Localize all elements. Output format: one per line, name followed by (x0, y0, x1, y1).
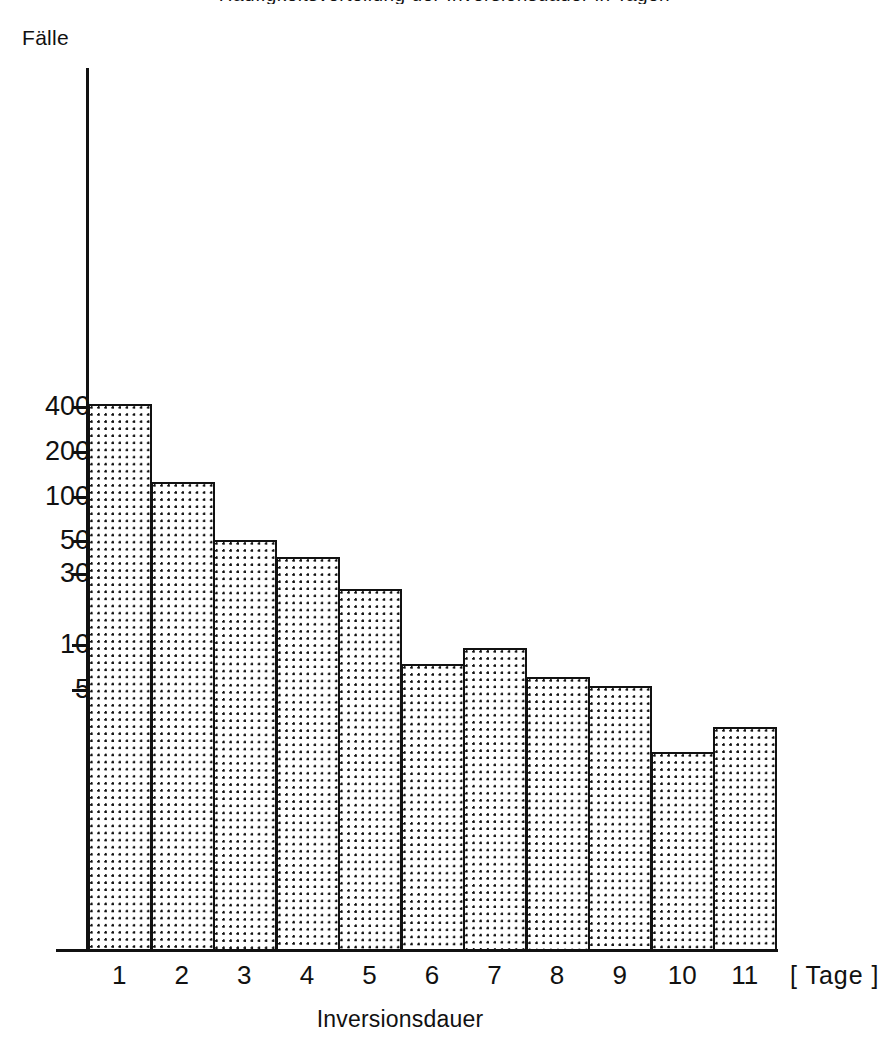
x-tick-label-3: 3 (213, 960, 276, 990)
bar-10 (651, 752, 715, 951)
histogram-chart: Fälle 4002001005030105 1234567891011 [ T… (0, 0, 889, 1053)
bar-2 (151, 482, 215, 951)
bar-8 (526, 677, 590, 951)
bar-9 (588, 686, 652, 951)
x-axis-unit-label: [ Tage ] (790, 960, 880, 990)
bar-5 (338, 589, 402, 951)
bar-3 (213, 540, 277, 951)
x-tick-label-11: 11 (713, 960, 776, 990)
x-tick-label-5: 5 (338, 960, 401, 990)
x-tick-label-1: 1 (88, 960, 151, 990)
bar-6 (401, 664, 465, 951)
bar-4 (276, 557, 340, 951)
x-tick-label-7: 7 (463, 960, 526, 990)
x-tick-label-10: 10 (651, 960, 714, 990)
bar-series (0, 0, 889, 1053)
x-tick-label-2: 2 (151, 960, 214, 990)
bar-1 (88, 404, 152, 951)
x-tick-label-9: 9 (588, 960, 651, 990)
x-tick-label-8: 8 (526, 960, 589, 990)
x-axis-title: Inversionsdauer (0, 1006, 800, 1033)
bar-7 (463, 648, 527, 951)
bar-11 (713, 727, 777, 951)
x-tick-label-6: 6 (401, 960, 464, 990)
x-tick-label-4: 4 (276, 960, 339, 990)
